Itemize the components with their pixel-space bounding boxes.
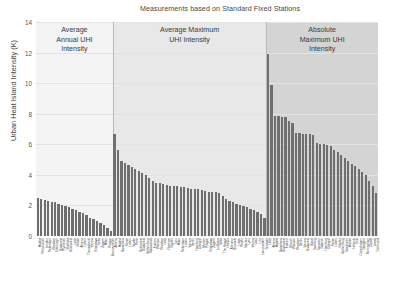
bar — [211, 192, 213, 236]
bar — [354, 166, 356, 236]
bar — [176, 186, 178, 236]
bar — [344, 158, 346, 236]
bar — [134, 169, 136, 236]
bar — [365, 175, 367, 236]
bar — [326, 145, 328, 236]
bar — [99, 223, 101, 236]
section-title-2: Average MaximumUHI Intensity — [113, 26, 267, 45]
bar — [277, 116, 279, 236]
bar — [333, 150, 335, 236]
bar — [263, 218, 265, 236]
bar — [103, 225, 105, 236]
bar — [225, 199, 227, 236]
y-axis-tick-2: 2 — [14, 202, 32, 209]
bar — [54, 202, 56, 236]
section-title-3: AbsoluteMaximum UHIIntensity — [266, 26, 378, 55]
bar — [61, 205, 63, 236]
bar — [218, 193, 220, 236]
bar — [148, 178, 150, 236]
bar — [201, 190, 203, 236]
chart-title: Measurements based on Standard Fixed Sta… — [0, 4, 404, 13]
bar — [249, 209, 251, 237]
bar — [274, 116, 276, 236]
bar — [57, 204, 59, 236]
bar — [75, 210, 77, 236]
bar — [302, 134, 304, 236]
bar — [44, 200, 46, 236]
bar — [110, 231, 112, 236]
bar — [347, 161, 349, 236]
bar — [180, 187, 182, 236]
bar — [260, 214, 262, 236]
bar — [159, 183, 161, 236]
bar — [215, 192, 217, 236]
bar — [89, 218, 91, 236]
x-axis-labels: MadridPortsmouthLondonRotterdamWroclawEd… — [36, 238, 378, 294]
bar — [106, 228, 108, 236]
bar — [330, 146, 332, 236]
bar — [131, 167, 133, 236]
bar — [40, 199, 42, 236]
bar — [204, 191, 206, 236]
y-axis-tick-10: 10 — [14, 80, 32, 87]
bar — [51, 202, 53, 236]
bar — [372, 186, 374, 236]
bar — [340, 155, 342, 236]
bar — [187, 188, 189, 236]
bar — [183, 187, 185, 236]
bar — [169, 186, 171, 236]
bar — [222, 196, 224, 236]
bar — [124, 163, 126, 236]
bar — [197, 189, 199, 236]
bar — [337, 152, 339, 236]
bar — [242, 206, 244, 236]
bar — [78, 212, 80, 236]
bar — [253, 210, 255, 236]
bar — [267, 54, 269, 236]
y-axis-tick-8: 8 — [14, 111, 32, 118]
y-axis-tick-14: 14 — [14, 19, 32, 26]
bar — [281, 117, 283, 236]
bar — [319, 144, 321, 236]
bar — [190, 189, 192, 236]
bar — [309, 134, 311, 236]
bar — [173, 186, 175, 236]
bar — [270, 85, 272, 236]
bar — [194, 189, 196, 236]
bar — [323, 144, 325, 236]
bar — [138, 171, 140, 236]
bar — [145, 175, 147, 236]
bar — [96, 221, 98, 236]
bar — [288, 121, 290, 236]
bar — [256, 212, 258, 236]
bar — [358, 169, 360, 236]
y-axis-tick-12: 12 — [14, 49, 32, 56]
bar — [166, 185, 168, 236]
bar — [246, 207, 248, 236]
bar — [47, 201, 49, 236]
bar — [312, 135, 314, 236]
bar — [375, 193, 377, 236]
bar — [117, 150, 119, 236]
bar — [208, 192, 210, 236]
bar — [351, 164, 353, 236]
bar — [71, 209, 73, 237]
bar — [239, 205, 241, 236]
bar — [82, 213, 84, 236]
bar — [127, 165, 129, 236]
y-axis-tick-0: 0 — [14, 233, 32, 240]
bar — [155, 183, 157, 237]
bar — [291, 123, 293, 236]
bar — [152, 181, 154, 236]
bar — [228, 201, 230, 236]
bar — [68, 207, 70, 236]
bar — [141, 173, 143, 236]
bar — [235, 204, 237, 236]
bar — [295, 133, 297, 236]
section-title-1: AverageAnnual UHIIntensity — [36, 26, 113, 55]
bar — [316, 143, 318, 236]
bar — [92, 219, 94, 236]
bar — [64, 206, 66, 236]
bar — [305, 134, 307, 236]
x-axis-tick-label: Dortmund — [377, 238, 380, 251]
